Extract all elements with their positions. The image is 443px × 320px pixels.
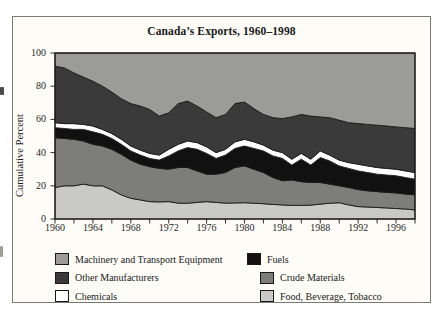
x-tick-label: 1964 bbox=[73, 222, 113, 233]
x-tick-label: 1980 bbox=[224, 222, 264, 233]
legend-swatch bbox=[260, 290, 274, 302]
y-tick-label: 100 bbox=[14, 47, 46, 58]
legend-item: Chemicals bbox=[55, 290, 117, 302]
legend-label: Crude Materials bbox=[280, 272, 345, 283]
legend-item: Food, Beverage, Tobacco bbox=[260, 290, 382, 302]
legend-label: Machinery and Transport Equipment bbox=[75, 254, 222, 265]
legend-swatch bbox=[260, 272, 274, 284]
x-tick-label: 1988 bbox=[300, 222, 340, 233]
scan-artifact bbox=[0, 246, 3, 257]
x-tick-label: 1972 bbox=[149, 222, 189, 233]
y-tick-label: 60 bbox=[14, 113, 46, 124]
legend-label: Fuels bbox=[267, 254, 289, 265]
legend-label: Other Manufacturers bbox=[75, 272, 159, 283]
legend-item: Machinery and Transport Equipment bbox=[55, 253, 222, 265]
y-tick-label: 80 bbox=[14, 80, 46, 91]
y-tick-label: 20 bbox=[14, 180, 46, 191]
legend-swatch bbox=[55, 253, 69, 265]
x-tick-label: 1968 bbox=[111, 222, 151, 233]
legend-item: Other Manufacturers bbox=[55, 272, 159, 284]
x-tick-label: 1960 bbox=[35, 222, 75, 233]
legend-item: Crude Materials bbox=[260, 272, 345, 284]
legend-label: Chemicals bbox=[75, 291, 117, 302]
scan-artifact bbox=[0, 87, 4, 95]
legend-swatch bbox=[55, 290, 69, 302]
legend-item: Fuels bbox=[247, 253, 289, 265]
legend-swatch bbox=[247, 253, 261, 265]
x-tick-label: 1976 bbox=[187, 222, 227, 233]
x-tick-label: 1992 bbox=[338, 222, 378, 233]
scanned-figure-page: Canada’s Exports, 1960–1998 Cumulative P… bbox=[0, 0, 443, 320]
legend-swatch bbox=[55, 272, 69, 284]
chart-title: Canada’s Exports, 1960–1998 bbox=[12, 25, 431, 37]
legend-label: Food, Beverage, Tobacco bbox=[280, 291, 382, 302]
x-tick-label: 1984 bbox=[262, 222, 302, 233]
x-tick-label: 1996 bbox=[376, 222, 416, 233]
y-tick-label: 40 bbox=[14, 147, 46, 158]
